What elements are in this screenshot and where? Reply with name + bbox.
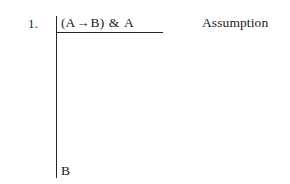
justification-label: Assumption: [202, 15, 268, 31]
implication-arrow-icon: →: [75, 15, 90, 30]
proof-figure: 1. (A→B) & A Assumption B: [0, 0, 290, 184]
formula-right-conjunct: A: [124, 15, 134, 30]
premise-formula: (A→B) & A: [61, 15, 134, 31]
conjunction-ampersand-icon: &: [108, 15, 121, 30]
goal-formula: B: [61, 163, 70, 179]
fitch-assumption-horizontal-rule: [56, 32, 163, 33]
formula-antecedent: A: [66, 15, 76, 30]
proof-line-number: 1.: [28, 16, 50, 32]
fitch-scope-vertical-line: [56, 16, 57, 178]
formula-consequent: B: [91, 15, 100, 30]
formula-close-paren: ): [100, 15, 105, 30]
